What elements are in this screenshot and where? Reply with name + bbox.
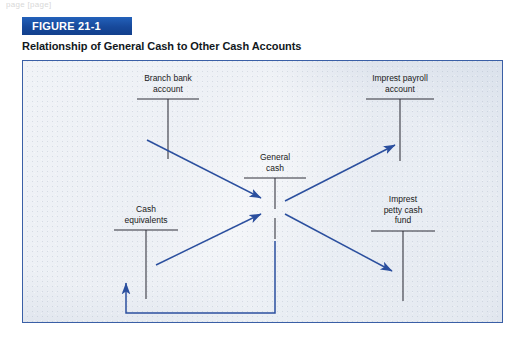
page-top-text-fragment: page [page] [6, 0, 52, 9]
label-general-cash: General cash [225, 152, 325, 173]
t-account-general-cash [244, 178, 306, 239]
t-account-imprest-petty-cash-fund [371, 231, 435, 301]
label-branch-bank-account: Branch bank account [118, 73, 218, 94]
label-cash-equivalents: Cash equivalents [96, 204, 196, 225]
diagram-canvas [23, 61, 501, 321]
t-account-cash-equivalents [114, 230, 178, 299]
label-imprest-payroll-account: Imprest payroll account [350, 73, 450, 94]
label-imprest-petty-cash-fund: Imprest petty cash fund [353, 194, 453, 226]
figure-number-banner: FIGURE 21-1 [22, 17, 132, 35]
figure-diagram-panel: Branch bank account Imprest payroll acco… [22, 60, 503, 323]
t-account-imprest-payroll-account [366, 99, 434, 161]
figure-number-label: FIGURE 21-1 [32, 20, 101, 32]
figure-caption: Relationship of General Cash to Other Ca… [22, 40, 301, 52]
flow-general-cash-return-to-cash-equivalents [126, 241, 275, 313]
